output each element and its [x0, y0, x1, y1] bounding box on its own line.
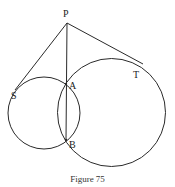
label-a: A [69, 80, 77, 91]
label-s: S [11, 90, 17, 101]
large-circle [58, 59, 166, 167]
label-t: T [133, 69, 139, 80]
secant-line-pab [66, 23, 67, 140]
point-a-dot [65, 83, 67, 85]
label-p: P [63, 8, 69, 19]
geometry-figure: P A B S T Figure 75 [0, 0, 175, 187]
point-b-dot [65, 139, 67, 141]
label-b: B [69, 139, 76, 150]
figure-caption: Figure 75 [70, 174, 105, 184]
tangent-line-pt [67, 23, 143, 64]
